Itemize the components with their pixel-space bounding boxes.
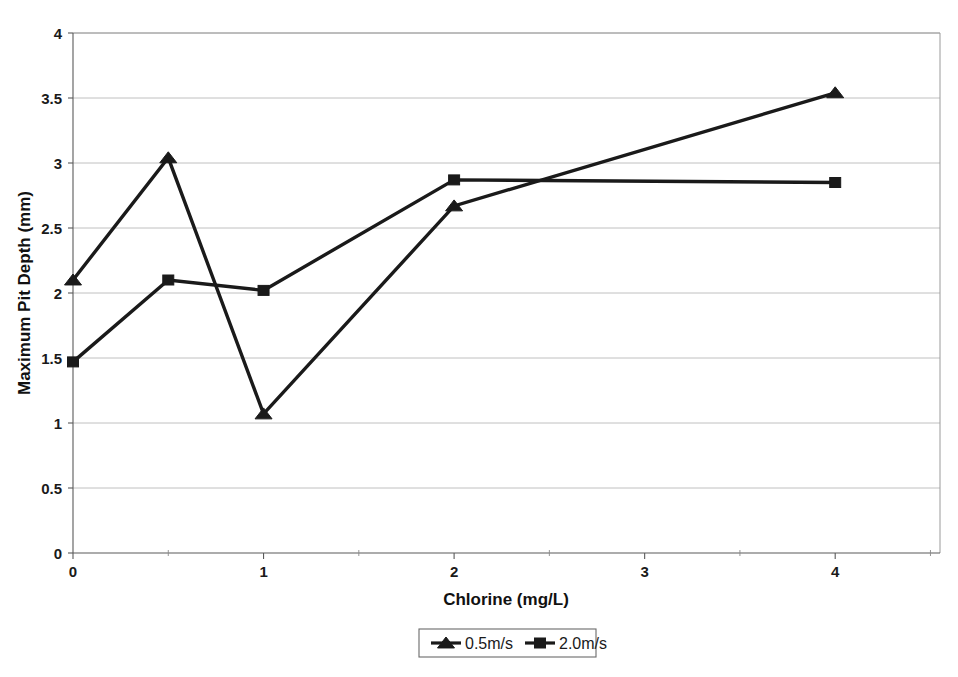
y-tick-label: 1.5 xyxy=(41,350,62,367)
legend-marker-square-icon xyxy=(535,638,546,648)
line-chart: 00.511.522.533.54 01234 Maximum Pit Dept… xyxy=(0,0,958,677)
y-tick-label: 1 xyxy=(54,415,62,432)
y-tick-label: 2 xyxy=(54,285,62,302)
y-axis-title: Maximum Pit Depth (mm) xyxy=(15,191,34,395)
y-tick-label: 0.5 xyxy=(41,480,62,497)
data-point-marker xyxy=(258,285,269,295)
y-tick-label: 2.5 xyxy=(41,220,62,237)
x-tick-label: 1 xyxy=(259,563,267,580)
x-tick-label: 3 xyxy=(640,563,648,580)
y-axis-title-text: Maximum Pit Depth (mm) xyxy=(15,191,34,395)
y-tick-label: 3 xyxy=(54,155,62,172)
chart-legend: 0.5m/s2.0m/s xyxy=(419,629,607,657)
data-point-marker xyxy=(830,178,841,188)
chart-container: 00.511.522.533.54 01234 Maximum Pit Dept… xyxy=(0,0,958,677)
y-tick-label: 3.5 xyxy=(41,90,62,107)
data-point-marker xyxy=(68,357,79,367)
x-axis-title-text: Chlorine (mg/L) xyxy=(443,590,569,609)
x-tick-label: 4 xyxy=(831,563,840,580)
x-tick-label: 0 xyxy=(69,563,77,580)
x-tick-label: 2 xyxy=(450,563,458,580)
y-tick-label: 4 xyxy=(54,25,63,42)
chart-background xyxy=(0,0,958,677)
legend-label: 0.5m/s xyxy=(465,635,513,652)
legend-label: 2.0m/s xyxy=(559,635,607,652)
x-axis-title: Chlorine (mg/L) xyxy=(443,590,569,609)
data-point-marker xyxy=(449,175,460,185)
y-tick-label: 0 xyxy=(54,545,62,562)
data-point-marker xyxy=(163,275,174,285)
